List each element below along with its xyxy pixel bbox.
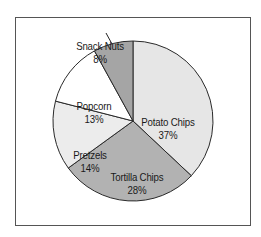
label-tortilla-chips: Tortilla Chips28% bbox=[111, 171, 164, 197]
label-potato-chips: Potato Chips37% bbox=[141, 116, 194, 142]
label-pretzels: Pretzels14% bbox=[73, 149, 107, 175]
pie-chart bbox=[0, 0, 261, 237]
label-snack-nuts: Snack Nuts8% bbox=[76, 40, 124, 66]
label-popcorn: Popcorn13% bbox=[77, 100, 112, 126]
